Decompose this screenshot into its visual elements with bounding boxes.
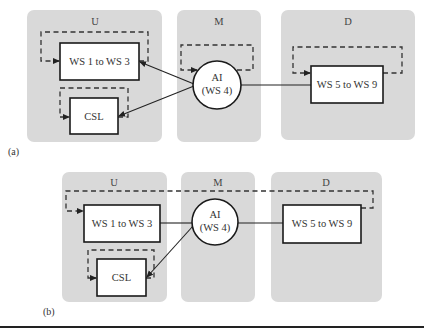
node-ws1-3-a-label: WS 1 to WS 3 — [69, 56, 129, 67]
node-csl-a-label: CSL — [84, 111, 103, 122]
panel-u-a-label: U — [91, 16, 99, 27]
node-ai-b-label-2: (WS 4) — [200, 222, 231, 234]
node-ws1-3-b-label: WS 1 to WS 3 — [92, 218, 152, 229]
figure-b: U M D WS 1 to WS 3 CSL AI (WS 4) WS 5 to… — [43, 172, 382, 318]
figure-a: U M D WS 1 to WS 3 CSL AI (WS 4) WS 5 to… — [8, 10, 415, 158]
diagram-canvas: U M D WS 1 to WS 3 CSL AI (WS 4) WS 5 to… — [0, 0, 428, 331]
panel-m-b-label: M — [213, 177, 223, 188]
caption-b: (b) — [43, 306, 55, 318]
node-csl-b-label: CSL — [112, 272, 131, 283]
node-ai-a-label-1: AI — [211, 72, 223, 83]
panel-u-b-label: U — [110, 177, 118, 188]
panel-m-a-label: M — [214, 16, 224, 27]
node-ws5-9-a-label: WS 5 to WS 9 — [317, 79, 377, 90]
node-ai-a-label-2: (WS 4) — [202, 85, 233, 97]
node-ai-b-label-1: AI — [209, 209, 221, 220]
node-ws5-9-b-label: WS 5 to WS 9 — [292, 218, 352, 229]
caption-a: (a) — [8, 146, 19, 158]
panel-d-b-label: D — [322, 177, 330, 188]
panel-d-a-label: D — [344, 16, 352, 27]
bottom-rule — [0, 326, 424, 328]
